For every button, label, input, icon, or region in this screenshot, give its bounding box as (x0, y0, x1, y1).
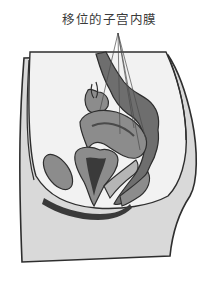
pelvis-illustration (0, 0, 219, 288)
anatomy-diagram: 移位的子宫内膜 (0, 0, 219, 288)
